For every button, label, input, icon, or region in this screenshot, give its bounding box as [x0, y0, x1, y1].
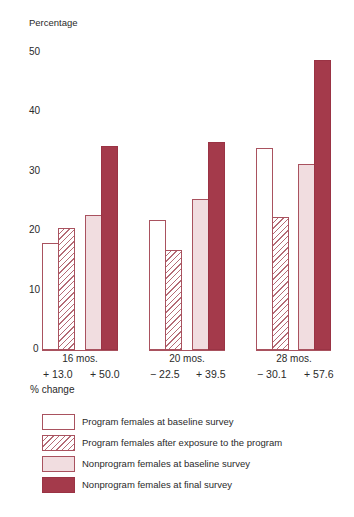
legend-item: Nonprogram females at final survey — [42, 477, 342, 494]
nonprogram-change-20: + 39.5 — [196, 368, 226, 380]
legend-swatch-hatched — [42, 435, 75, 451]
program-change-16: + 13.0 — [43, 368, 73, 380]
bar — [256, 148, 273, 350]
legend-label: Nonprogram females at baseline survey — [82, 458, 250, 469]
bar — [42, 243, 59, 350]
legend-item: Program females after exposure to the pr… — [42, 435, 342, 452]
group-baseline — [256, 350, 331, 351]
nonprogram-change-16: + 50.0 — [90, 368, 120, 380]
legend-label: Program females at baseline survey — [82, 416, 234, 427]
bar — [272, 217, 289, 350]
legend-swatch-light — [42, 456, 75, 472]
legend-label: Program females after exposure to the pr… — [82, 437, 282, 448]
bar — [149, 220, 166, 350]
bar — [165, 250, 182, 350]
nonprogram-change-28: + 57.6 — [304, 368, 334, 380]
legend-swatch-outline — [42, 414, 75, 430]
group-label-28: 28 mos. — [264, 353, 324, 364]
program-change-28: − 30.1 — [257, 368, 287, 380]
bar — [314, 60, 331, 350]
legend-swatch-dark — [42, 477, 75, 493]
y-tick: 50 — [29, 46, 49, 57]
group-label-16: 16 mos. — [50, 353, 110, 364]
legend-label: Nonprogram females at final survey — [82, 479, 232, 490]
bar — [192, 199, 209, 350]
legend-item: Nonprogram females at baseline survey — [42, 456, 342, 473]
bar — [58, 228, 75, 350]
group-label-20: 20 mos. — [157, 353, 217, 364]
y-tick: 30 — [29, 165, 49, 176]
y-tick: 40 — [29, 105, 49, 116]
program-change-20: − 22.5 — [150, 368, 180, 380]
group-baseline — [42, 350, 118, 351]
bar — [101, 146, 118, 350]
legend-item: Program females at baseline survey — [42, 414, 342, 431]
bar — [298, 164, 315, 350]
group-baseline — [149, 350, 225, 351]
percent-change-label: % change — [30, 384, 74, 395]
y-tick: 20 — [29, 224, 49, 235]
bar — [85, 215, 102, 350]
y-axis-label: Percentage — [29, 17, 78, 28]
bar — [208, 142, 225, 350]
